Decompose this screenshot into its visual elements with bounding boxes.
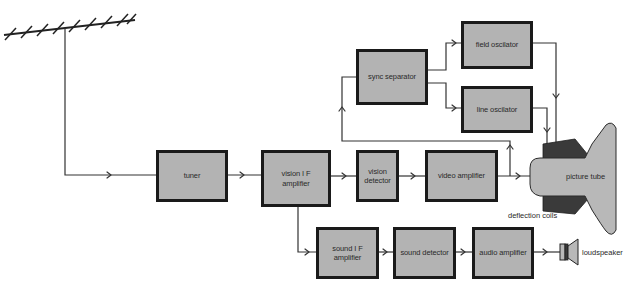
line-oscillator-block: line oscilator — [461, 86, 533, 133]
audio-amplifier-block: audio amplifier — [472, 227, 534, 279]
tv-receiver-diagram: tuner vision I F amplifier vision detect… — [0, 0, 629, 291]
vision-detector-label: vision detector — [364, 167, 390, 186]
vision-detector-block: vision detector — [356, 150, 399, 202]
antenna-icon — [4, 14, 136, 40]
sound-if-amplifier-block: sound I F amplifier — [316, 227, 379, 279]
sync-separator-block: sync separator — [356, 49, 428, 105]
audio-amplifier-label: audio amplifier — [479, 248, 526, 257]
sound-detector-label: sound detector — [400, 248, 448, 257]
vision-if-amplifier-label: vision I F amplifier — [281, 169, 310, 188]
vision-if-amplifier-block: vision I F amplifier — [261, 150, 331, 207]
sound-detector-block: sound detector — [393, 227, 456, 279]
sync-separator-label: sync separator — [368, 72, 416, 81]
sound-if-amplifier-label: sound I F amplifier — [332, 244, 362, 263]
video-amplifier-label: video amplifier — [438, 171, 485, 180]
field-oscillator-label: field oscilator — [476, 40, 518, 49]
picture-tube-label: picture tube — [566, 172, 605, 181]
tuner-block: tuner — [156, 150, 228, 202]
connection-wires — [0, 0, 629, 291]
field-oscillator-block: field oscilator — [461, 21, 533, 69]
tuner-label: tuner — [184, 171, 201, 180]
line-oscillator-label: line oscilator — [477, 105, 517, 114]
deflection-coils-label: deflection coils — [508, 211, 557, 220]
video-amplifier-block: video amplifier — [425, 150, 498, 202]
speaker-icon — [560, 239, 578, 265]
loudspeaker-label: loudspeaker — [582, 248, 623, 257]
